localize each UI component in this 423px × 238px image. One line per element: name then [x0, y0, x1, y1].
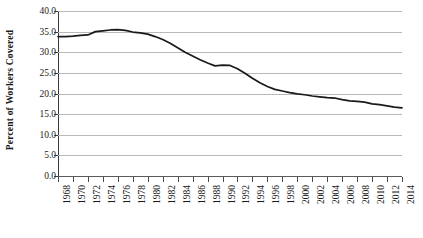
x-axis-tick-mark: [267, 177, 268, 182]
chart-container: Percent of Workers Covered 0.05.010.015.…: [0, 0, 423, 238]
y-axis-tick-label: 10.0: [14, 130, 56, 140]
y-axis-tick-label: 35.0: [14, 27, 56, 37]
y-axis-tick-mark: [54, 52, 58, 53]
y-axis-tick-mark: [54, 11, 58, 12]
x-axis-tick-label: 1980: [152, 185, 162, 204]
y-axis-tick-labels: 0.05.010.015.020.025.030.035.040.0: [14, 0, 56, 238]
y-axis-tick-label: 40.0: [14, 6, 56, 16]
x-axis-tick-label-text: 1992: [241, 185, 251, 204]
x-axis-tick-mark: [342, 177, 343, 182]
x-axis-tick-label-text: 1974: [107, 185, 117, 204]
x-axis-tick-label: 1974: [107, 185, 117, 204]
x-axis-tick-mark: [88, 177, 89, 182]
x-axis-tick-label-text: 1996: [271, 185, 281, 204]
x-axis-tick-label: 1968: [62, 185, 72, 204]
x-axis-tick-label-text: 1978: [137, 185, 147, 204]
x-axis-tick-label-text: 2010: [376, 185, 386, 204]
x-axis-tick-label-text: 1968: [62, 185, 72, 204]
x-axis-tick-mark: [103, 177, 104, 182]
x-axis-tick-mark: [58, 177, 59, 182]
x-axis-tick-label-text: 1988: [212, 185, 222, 204]
x-axis-tick-label: 2010: [376, 185, 386, 204]
x-axis-tick-label-text: 2006: [346, 185, 356, 204]
x-axis-tick-label-text: 2000: [301, 185, 311, 204]
y-axis-tick-label: 25.0: [14, 68, 56, 78]
x-axis-tick-label: 1994: [256, 185, 266, 204]
y-axis-tick-label: 5.0: [14, 150, 56, 160]
x-axis-tick-label: 2000: [301, 185, 311, 204]
y-axis-tick-mark: [54, 73, 58, 74]
y-axis-tick-label: 30.0: [14, 47, 56, 57]
x-axis-tick-label-text: 2002: [316, 185, 326, 204]
x-axis-tick-label: 1982: [167, 185, 177, 204]
data-line-series: [58, 11, 402, 176]
x-axis-tick-mark: [297, 177, 298, 182]
x-axis-tick-mark: [133, 177, 134, 182]
x-axis-tick-mark: [237, 177, 238, 182]
x-axis-tick-mark: [327, 177, 328, 182]
x-axis-tick-label-text: 2012: [391, 185, 401, 204]
x-axis-tick-mark: [193, 177, 194, 182]
x-axis-tick-label: 1976: [122, 185, 132, 204]
plot-area: [58, 11, 402, 176]
x-axis-tick-label: 2012: [391, 185, 401, 204]
x-axis-tick-label: 1972: [92, 185, 102, 204]
y-axis-tick-mark: [54, 114, 58, 115]
x-axis-tick-label-text: 1980: [152, 185, 162, 204]
x-axis-tick-label-text: 1984: [182, 185, 192, 204]
x-axis-tick-mark: [387, 177, 388, 182]
x-axis-tick-label: 1986: [197, 185, 207, 204]
x-axis-tick-mark: [118, 177, 119, 182]
x-axis-tick-label: 1970: [77, 185, 87, 204]
y-axis-tick-mark: [54, 155, 58, 156]
x-axis-tick-mark: [357, 177, 358, 182]
x-axis-tick-label-text: 2008: [361, 185, 371, 204]
x-axis-tick-label: 1998: [286, 185, 296, 204]
x-axis-tick-mark: [372, 177, 373, 182]
y-axis-tick-mark: [54, 32, 58, 33]
x-axis-tick-label: 1990: [227, 185, 237, 204]
x-axis-tick-mark: [252, 177, 253, 182]
x-axis-tick-mark: [178, 177, 179, 182]
x-axis-tick-mark: [148, 177, 149, 182]
x-axis-tick-mark: [223, 177, 224, 182]
x-axis-tick-label: 2006: [346, 185, 356, 204]
x-axis-tick-mark: [73, 177, 74, 182]
x-axis-tick-label: 1984: [182, 185, 192, 204]
y-axis-tick-mark: [54, 135, 58, 136]
series-polyline: [58, 30, 402, 108]
x-axis-tick-label-text: 2014: [406, 185, 416, 204]
x-axis-tick-label-text: 2004: [331, 185, 341, 204]
x-axis-tick-mark: [282, 177, 283, 182]
x-axis-tick-label-text: 1972: [92, 185, 102, 204]
x-axis-tick-label: 1978: [137, 185, 147, 204]
y-axis-tick-label: 20.0: [14, 89, 56, 99]
x-axis-tick-label-text: 1998: [286, 185, 296, 204]
x-axis-tick-label-text: 1986: [197, 185, 207, 204]
x-axis-tick-label-text: 1976: [122, 185, 132, 204]
x-axis-tick-label: 2002: [316, 185, 326, 204]
x-axis-tick-label: 2008: [361, 185, 371, 204]
x-axis-tick-mark: [163, 177, 164, 182]
x-axis-tick-label-text: 1982: [167, 185, 177, 204]
y-axis-tick-label: 15.0: [14, 109, 56, 119]
x-axis-tick-label: 1992: [241, 185, 251, 204]
y-axis-tick-label: 0.0: [14, 171, 56, 181]
x-axis-tick-label: 1996: [271, 185, 281, 204]
y-axis-tick-mark: [54, 176, 58, 177]
gridline: [58, 176, 402, 177]
x-axis-tick-label: 2014: [406, 185, 416, 204]
x-axis-tick-label: 2004: [331, 185, 341, 204]
x-axis-tick-label: 1988: [212, 185, 222, 204]
x-axis-tick-label-text: 1994: [256, 185, 266, 204]
y-axis-tick-mark: [54, 94, 58, 95]
x-axis-tick-label-text: 1970: [77, 185, 87, 204]
x-axis-tick-mark: [312, 177, 313, 182]
x-axis-tick-label-text: 1990: [227, 185, 237, 204]
x-axis-tick-mark: [208, 177, 209, 182]
x-axis-tick-mark: [402, 177, 403, 182]
